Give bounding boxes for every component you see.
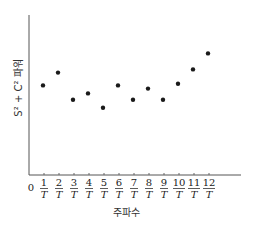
- x-tick-label: 10T: [173, 177, 186, 200]
- x-tick-label: 8T: [145, 177, 154, 200]
- x-tick-denominator: T: [176, 189, 184, 200]
- x-tick-numerator: 2: [56, 177, 62, 188]
- data-point: [146, 86, 150, 90]
- axes: [29, 15, 241, 175]
- x-tick-label: 6T: [115, 177, 124, 200]
- x-tick-numerator: 8: [146, 177, 152, 188]
- x-tick-label: 12T: [203, 177, 216, 200]
- x-tick-numerator: 1: [41, 177, 47, 188]
- data-point: [71, 98, 75, 102]
- data-point: [161, 98, 165, 102]
- x-tick-denominator: T: [56, 189, 64, 200]
- data-point: [176, 82, 180, 86]
- data-point: [101, 106, 105, 110]
- x-tick-label: 11T: [188, 177, 201, 200]
- x-tick-denominator: T: [146, 189, 154, 200]
- x-tick-denominator: T: [41, 189, 49, 200]
- x-tick-numerator: 6: [116, 177, 122, 188]
- x-tick-denominator: T: [131, 189, 139, 200]
- data-point: [41, 83, 45, 87]
- data-points: [41, 51, 210, 110]
- data-point: [131, 98, 135, 102]
- x-tick-label: 3T: [70, 177, 79, 200]
- x-tick-numerator: 10: [173, 177, 186, 188]
- x-tick-label: 4T: [85, 177, 94, 200]
- origin-label: 0: [28, 182, 34, 193]
- x-tick-denominator: T: [161, 189, 169, 200]
- x-tick-label: 7T: [130, 177, 139, 200]
- scatter-chart: 1T2T3T4T5T6T7T8T9T10T11T12T 0 주파수 S² + C…: [0, 0, 255, 230]
- x-tick-denominator: T: [206, 189, 214, 200]
- x-tick-numerator: 4: [86, 177, 92, 188]
- x-tick-label: 5T: [100, 177, 109, 200]
- x-tick-label: 1T: [40, 177, 49, 200]
- x-tick-numerator: 12: [203, 177, 216, 188]
- x-tick-numerator: 11: [188, 177, 201, 188]
- x-tick-denominator: T: [86, 189, 94, 200]
- x-ticks: 1T2T3T4T5T6T7T8T9T10T11T12T: [40, 173, 215, 200]
- data-point: [191, 67, 195, 71]
- data-point: [206, 51, 210, 55]
- y-axis-label: S² + C² 파워: [12, 59, 24, 116]
- x-tick-numerator: 5: [101, 177, 107, 188]
- x-axis-label: 주파수: [113, 207, 140, 218]
- data-point: [56, 70, 60, 74]
- data-point: [86, 91, 90, 95]
- x-tick-numerator: 9: [161, 177, 167, 188]
- x-tick-label: 2T: [55, 177, 64, 200]
- x-tick-denominator: T: [191, 189, 199, 200]
- x-tick-denominator: T: [101, 189, 109, 200]
- x-tick-label: 9T: [160, 177, 169, 200]
- x-tick-numerator: 3: [71, 177, 77, 188]
- x-tick-denominator: T: [71, 189, 79, 200]
- x-tick-numerator: 7: [131, 177, 137, 188]
- data-point: [116, 83, 120, 87]
- x-tick-denominator: T: [116, 189, 124, 200]
